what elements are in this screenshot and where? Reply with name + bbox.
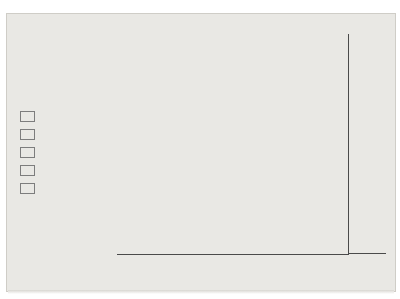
stacked-area-svg bbox=[107, 28, 353, 254]
legend-swatch-new-zealand-pacific bbox=[20, 129, 35, 140]
legend-swatch-americas bbox=[20, 147, 35, 158]
plot-area bbox=[107, 28, 353, 254]
x-axis-ticks bbox=[117, 255, 349, 262]
legend-swatch-asia bbox=[20, 111, 35, 122]
top-bleed-strip bbox=[0, 0, 400, 13]
legend-swatch-europe bbox=[20, 165, 35, 176]
legend-swatch-uk-ireland bbox=[20, 183, 35, 194]
panel-shadow bbox=[8, 290, 394, 294]
chart-panel bbox=[6, 13, 396, 292]
y-axis-zero-line bbox=[348, 253, 386, 254]
y-axis-line bbox=[348, 34, 349, 254]
chart-figure bbox=[0, 0, 400, 299]
